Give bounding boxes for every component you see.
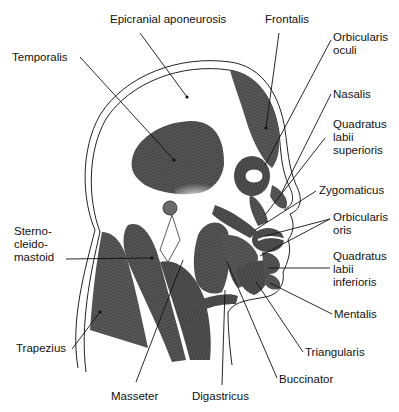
- label-buccinator: Buccinator: [279, 373, 333, 386]
- label-orbicularis-oculi: Orbicularis oculi: [333, 31, 388, 57]
- label-digastricus: Digastricus: [192, 390, 249, 403]
- label-zygomaticus: Zygomaticus: [319, 184, 384, 197]
- label-triangularis: Triangularis: [305, 346, 365, 359]
- quadratus-labii-inferioris-muscle: [262, 252, 280, 274]
- quadratus-labii-superioris-muscle: [249, 195, 268, 226]
- label-frontalis: Frontalis: [265, 13, 309, 26]
- label-trapezius: Trapezius: [16, 342, 66, 355]
- mastoid-bone: [160, 201, 180, 262]
- label-quadratus-labii-inferioris: Quadratus labii inferioris: [333, 250, 387, 289]
- label-orbicularis-oris: Orbicularis oris: [333, 211, 388, 237]
- label-mentalis: Mentalis: [334, 308, 377, 321]
- masseter-muscle: [194, 223, 230, 294]
- orbicularis-oculi-muscle: [234, 156, 270, 196]
- label-temporalis: Temporalis: [12, 51, 68, 64]
- label-quadratus-labii-superioris: Quadratus labii superioris: [333, 118, 387, 157]
- label-masseter: Masseter: [111, 390, 158, 403]
- label-sterno-cleido-mastoid: Sterno- cleido- mastoid: [14, 225, 54, 264]
- label-nasalis: Nasalis: [333, 88, 371, 101]
- label-epicranial-aponeurosis: Epicranial aponeurosis: [110, 13, 226, 26]
